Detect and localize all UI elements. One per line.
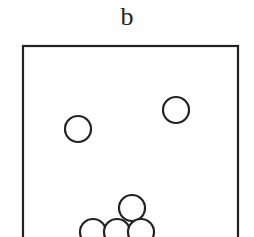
particle-circle [163, 97, 189, 123]
diagram-canvas [0, 0, 254, 237]
particle-circle [65, 116, 91, 142]
particle-circle [128, 219, 154, 237]
particle-circle [80, 219, 106, 237]
particle-group [65, 97, 189, 237]
particle-circle [119, 195, 145, 221]
particle-circle [104, 219, 130, 237]
